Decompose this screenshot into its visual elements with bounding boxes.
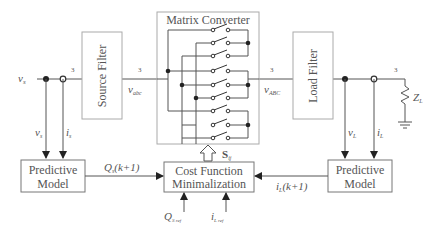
predictive-model-left: Predictive Model [21, 160, 85, 192]
svg-text:Model: Model [37, 177, 69, 191]
source-filter-block: Source Filter [82, 32, 122, 119]
matrix-converter-label: Matrix Converter [166, 13, 250, 27]
svg-text:Model: Model [344, 177, 376, 191]
cost-function-block: Cost Function Minimalization [164, 162, 254, 192]
switching-signal-label: Sij [222, 148, 232, 161]
source-filter-label: Source Filter [95, 45, 109, 107]
vs-measure-label: vs [35, 126, 43, 139]
v-ABC-label: vABC [264, 83, 281, 96]
qs-pred-label: Qs(k+1) [104, 161, 140, 174]
svg-text:Cost Function: Cost Function [175, 164, 243, 178]
mpc-diagram: Source Filter Matrix Converter [0, 0, 442, 230]
phase-count: 3 [138, 66, 142, 74]
load-filter-label: Load Filter [306, 49, 320, 103]
il-measure-label: iL [377, 126, 384, 139]
switching-signal-arrow [200, 145, 216, 161]
load-filter-block: Load Filter [293, 32, 333, 119]
phase-count: 3 [394, 66, 398, 74]
is-measure-label: is [66, 126, 72, 139]
matrix-converter-block: Matrix Converter [157, 12, 259, 144]
v-abc-label: vabc [128, 83, 142, 96]
vs-input-label: vs [18, 72, 26, 86]
svg-text:Minimalization: Minimalization [172, 177, 246, 191]
phase-count: 3 [71, 66, 75, 74]
vl-measure-label: vL [348, 126, 357, 139]
predictive-model-right: Predictive Model [328, 160, 392, 192]
load-impedance-label: ZL [413, 91, 423, 104]
svg-text:Predictive: Predictive [336, 163, 385, 177]
il-pred-label: iL(k+1) [276, 180, 308, 193]
i-ref-label: iL ref [211, 210, 224, 223]
q-ref-label: QS ref [164, 210, 182, 223]
phase-count: 3 [270, 66, 274, 74]
load-impedance [398, 79, 412, 128]
svg-text:Predictive: Predictive [29, 163, 78, 177]
